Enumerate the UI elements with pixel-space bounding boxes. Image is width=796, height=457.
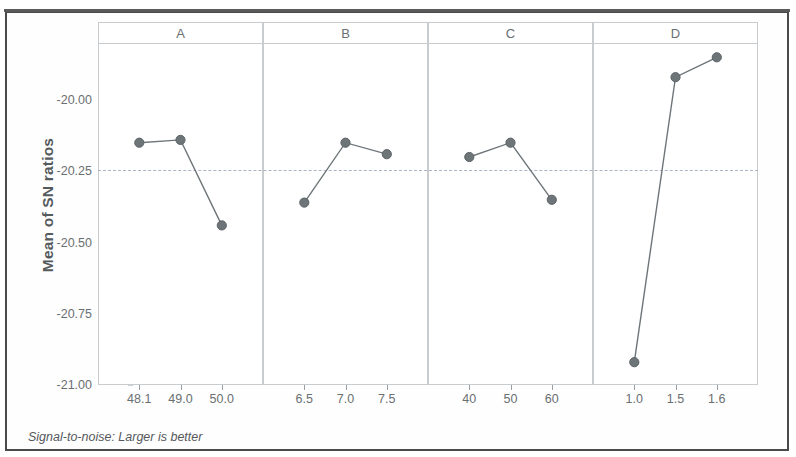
x-tick-label: 1.6 — [692, 392, 742, 406]
y-axis-ticks: -20.00-20.25-20.50-20.75-21.00 — [36, 0, 92, 457]
panel-plot-c — [428, 44, 593, 385]
reference-line — [98, 170, 758, 171]
panel-header-c: C — [428, 22, 593, 44]
footnote-text: Signal-to-noise: Larger is better — [28, 430, 202, 444]
panel-header-d: D — [593, 22, 758, 44]
x-tick-mark — [346, 385, 347, 390]
x-tick-mark — [511, 385, 512, 390]
panel-header-label: D — [671, 26, 680, 41]
x-tick-mark — [181, 385, 182, 390]
panel-header-b: B — [263, 22, 428, 44]
x-tick-mark — [676, 385, 677, 390]
y-tick-label: -20.75 — [36, 307, 92, 321]
x-tick-mark — [634, 385, 635, 390]
y-tick-label: -20.00 — [36, 93, 92, 107]
x-tick-label: 50.0 — [197, 392, 247, 406]
y-tick-label: -20.25 — [36, 164, 92, 178]
panel-plot-b — [263, 44, 428, 385]
panel-plot-d — [593, 44, 758, 385]
x-tick-mark — [139, 385, 140, 390]
y-tick-label: -20.50 — [36, 236, 92, 250]
x-tick-mark — [552, 385, 553, 390]
x-tick-mark — [222, 385, 223, 390]
x-tick-mark — [387, 385, 388, 390]
panel-header-label: C — [506, 26, 515, 41]
panel-header-label: B — [341, 26, 350, 41]
panel-header-label: A — [176, 26, 185, 41]
x-tick-mark — [469, 385, 470, 390]
x-tick-mark — [304, 385, 305, 390]
x-tick-mark — [717, 385, 718, 390]
panel-plot-a — [98, 44, 263, 385]
x-tick-label: 60 — [527, 392, 577, 406]
x-tick-label: 7.5 — [362, 392, 412, 406]
panel-header-a: A — [98, 22, 263, 44]
y-tick-label: -21.00 — [36, 378, 92, 392]
main-effects-plot: Mean of SN ratios -20.00-20.25-20.50-20.… — [0, 0, 796, 457]
